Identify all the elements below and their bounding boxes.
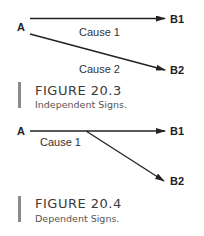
caption-bar (18, 196, 21, 222)
node-a: A (17, 126, 25, 137)
figure-title: FIGURE 20.4 (35, 197, 122, 210)
node-b1: B1 (170, 14, 184, 25)
figure-title: FIGURE 20.3 (35, 84, 122, 97)
edge-branch-to-b2 (86, 131, 164, 181)
figure-subtitle: Independent Signs. (35, 100, 127, 110)
edge-label-cause-2: Cause 2 (79, 64, 120, 75)
node-b2: B2 (170, 176, 184, 187)
caption-bar (18, 82, 21, 108)
figure-subtitle: Dependent Signs. (35, 214, 119, 224)
figure-20-4: A B1 B2 Cause 1 FIGURE 20.4 Dependent Si… (0, 116, 204, 236)
node-b2: B2 (170, 65, 184, 76)
edge-label-cause-1: Cause 1 (79, 27, 120, 38)
node-a: A (17, 22, 25, 33)
edge-label-cause-1: Cause 1 (40, 137, 81, 148)
figure-20-3: A B1 B2 Cause 1 Cause 2 FIGURE 20.3 Inde… (0, 0, 204, 116)
node-b1: B1 (170, 126, 184, 137)
